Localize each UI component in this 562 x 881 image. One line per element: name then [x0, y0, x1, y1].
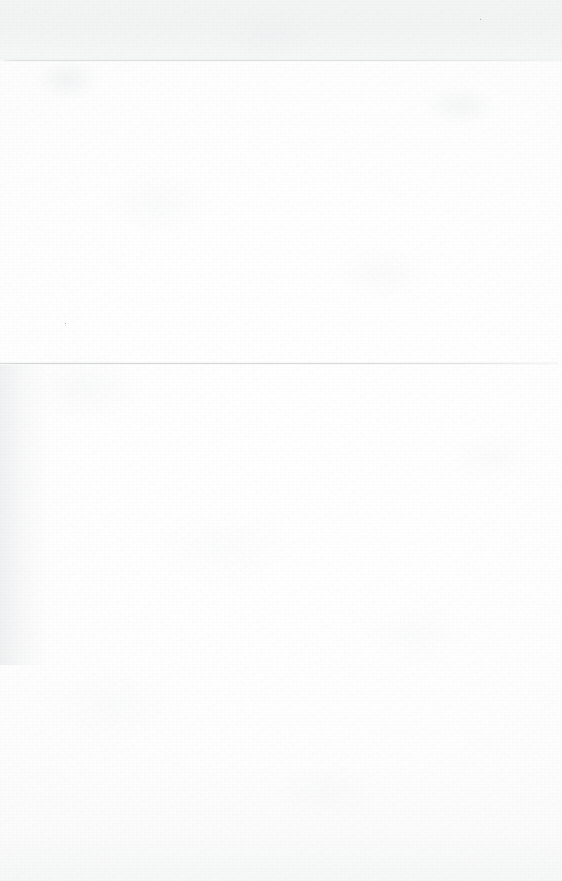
left-edge-shading	[0, 365, 62, 665]
paper-surface	[0, 0, 562, 881]
bottom-edge-shading	[0, 761, 562, 881]
header-band	[0, 0, 562, 61]
scanned-page	[0, 0, 562, 881]
